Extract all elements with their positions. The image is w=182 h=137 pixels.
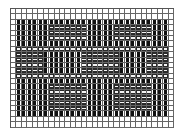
grid-cell [169,122,174,127]
weave-pattern-grid [10,8,174,128]
